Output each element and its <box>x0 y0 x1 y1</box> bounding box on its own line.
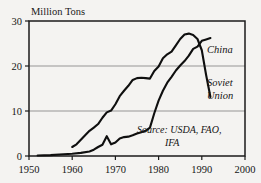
ytick-label-0: 0 <box>17 151 22 162</box>
xtick-label-1970: 1970 <box>105 164 126 175</box>
fertilizer-use-chart: Million Tons 195019601970198019902000 01… <box>0 0 261 183</box>
ytick-label-10: 10 <box>12 106 23 117</box>
xtick-label-1980: 1980 <box>148 164 169 175</box>
series-label-china: China <box>207 44 233 55</box>
y-tick-labels: 0102030 <box>12 16 23 162</box>
ytick-label-20: 20 <box>12 61 23 72</box>
data-series <box>38 34 211 156</box>
source-annotation-line2: IFA <box>164 137 180 148</box>
xtick-label-2000: 2000 <box>235 164 256 175</box>
gridlines <box>29 66 245 111</box>
series-line-china <box>38 38 211 155</box>
y-axis-title: Million Tons <box>31 6 85 17</box>
plot-frame <box>29 21 245 156</box>
series-label-soviet-union-line2: Union <box>207 90 233 101</box>
xtick-label-1950: 1950 <box>19 164 40 175</box>
frame-path <box>29 21 245 156</box>
ytick-label-30: 30 <box>12 16 23 27</box>
x-tick-labels: 195019601970198019902000 <box>19 164 256 175</box>
xtick-label-1960: 1960 <box>62 164 83 175</box>
series-label-soviet-union-line1: Soviet <box>207 77 234 88</box>
chart-canvas: Million Tons 195019601970198019902000 01… <box>0 0 261 183</box>
xtick-label-1990: 1990 <box>191 164 212 175</box>
source-annotation-line1: Source: USDA, FAO, <box>137 124 221 135</box>
